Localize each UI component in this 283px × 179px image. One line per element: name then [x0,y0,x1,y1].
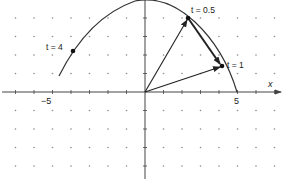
grid-dot [218,54,220,56]
grid-dot [255,54,257,56]
grid-dot [126,17,128,19]
grid-dot [70,147,72,149]
grid-dot [255,128,257,130]
grid-dot [107,110,109,112]
grid-dot [126,54,128,56]
grid-dot [70,165,72,167]
grid-dot [237,73,239,75]
diagram-canvas: −5 5 x t = 4 t = 0.5 t = 1 [0,0,283,179]
x-axis-label: x [267,79,273,89]
grid-dot [163,54,165,56]
grid-dot [181,128,183,130]
grid-dot [15,110,17,112]
grid-dot [200,147,202,149]
grid-dot [181,36,183,38]
grid-dot [218,36,220,38]
grid-dot [70,36,72,38]
grid-dot [237,147,239,149]
grid-dot [70,17,72,19]
grid-dot [89,128,91,130]
grid-dot [237,36,239,38]
grid-dot [181,17,183,19]
grid-dot [33,110,35,112]
grid-dot [274,128,276,130]
grid-dot [237,17,239,19]
grid-dot [52,165,54,167]
grid-dot [255,36,257,38]
grid-dot [126,110,128,112]
grid-dot [218,73,220,75]
point-t1 [220,64,225,69]
grid-dot [181,147,183,149]
grid-dot [89,147,91,149]
grid-dot [200,17,202,19]
grid-dot [107,147,109,149]
grid-dot [255,165,257,167]
grid-dot [15,147,17,149]
label-t1: t = 1 [227,60,244,70]
grid-dot [107,36,109,38]
grid-dot [218,128,220,130]
grid-dot [33,165,35,167]
grid-dot [163,165,165,167]
grid-dot [163,128,165,130]
vector-r-t05 [145,20,187,92]
grid-dot [15,73,17,75]
grid-dot [255,73,257,75]
grid-dot [107,73,109,75]
grid-dot [237,54,239,56]
grid-dot [218,110,220,112]
grid-dot [33,128,35,130]
grid-dot [181,110,183,112]
grid-dot [52,128,54,130]
grid-dot [126,73,128,75]
grid-dot [200,128,202,130]
grid-dot [181,165,183,167]
point-t05 [186,16,191,21]
grid-dot [89,36,91,38]
grid-dot [33,17,35,19]
grid-dot [70,110,72,112]
grid-dot [181,54,183,56]
grid-dot [107,54,109,56]
grid-dot [126,36,128,38]
grid-dot [33,54,35,56]
tick-label-5: 5 [234,96,239,106]
grid-dot [218,17,220,19]
grid-dot [107,128,109,130]
grid-dot [274,54,276,56]
grid-dot [89,165,91,167]
tick-label-neg5: −5 [41,96,51,106]
grid-dot [126,165,128,167]
grid-dot [33,73,35,75]
grid-dot [107,165,109,167]
grid-dot [89,54,91,56]
grid-dot [15,17,17,19]
grid-dot [89,110,91,112]
grid-dot [218,147,220,149]
grid-dot [181,73,183,75]
grid-dot [70,128,72,130]
grid-dot [52,147,54,149]
grid-dot [52,110,54,112]
grid-dot [274,36,276,38]
grid-dot [89,73,91,75]
grid-dot [33,147,35,149]
grid-dot [163,17,165,19]
grid-dot [200,165,202,167]
grid-dot [255,17,257,19]
grid-dot [274,165,276,167]
point-t4 [71,49,76,54]
grid-dot [89,17,91,19]
vector-difference [188,18,220,64]
grid-dot [52,36,54,38]
grid-dot [200,54,202,56]
grid-dot [274,110,276,112]
grid-dot [52,54,54,56]
grid-dot [126,128,128,130]
grid-dot [255,147,257,149]
grid-dot [163,147,165,149]
grid-dot [15,165,17,167]
grid-dot [163,36,165,38]
grid-dot [15,54,17,56]
